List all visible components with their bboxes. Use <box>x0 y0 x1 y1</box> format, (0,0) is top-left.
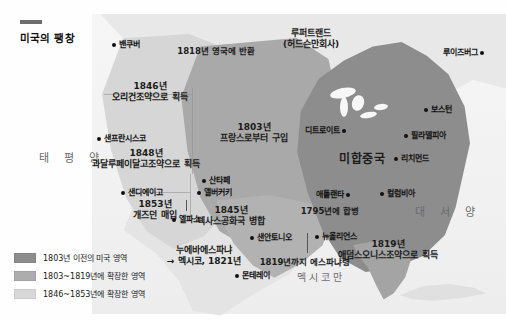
city-marker-albuquerque: 앨버커키 <box>195 186 232 197</box>
leader-line-spanish-1819 <box>307 233 308 253</box>
city-dot-icon <box>172 218 176 222</box>
region-label-line1: 1845년 <box>197 205 264 216</box>
city-label: 디트로이트 <box>305 126 340 135</box>
city-label: 엘파소 <box>179 215 200 224</box>
region-label-spanish-until-1819: 1819년까지 에스파냐령 <box>260 257 351 268</box>
city-marker-santa-fe: 산타페 <box>200 174 230 185</box>
city-label: 필라델피아 <box>411 131 446 140</box>
title-rule <box>20 20 42 24</box>
city-label: 애틀랜타 <box>316 190 344 199</box>
region-label-new-spain-mexico-1821: 누에바에스파냐→ 멕시코, 1821년 <box>167 245 241 268</box>
city-label: 샌디에이고 <box>128 188 163 197</box>
region-label-line2: 과달루페이달고조약으로 획득 <box>92 159 199 170</box>
city-marker-new-orleans: 뉴올리언스 <box>313 230 357 241</box>
region-label-line2: 텍사스공화국 병합 <box>197 216 264 227</box>
city-marker-detroit: 디트로이트 <box>305 124 348 135</box>
city-marker-san-diego: 샌디에이고 <box>119 186 163 197</box>
legend-label: 1846~1853년에 확장한 영역 <box>43 288 145 299</box>
city-dot-icon <box>404 134 408 138</box>
atlantic-ocean-label: 대 서 양 <box>415 206 482 220</box>
city-label: 보스턴 <box>431 105 452 114</box>
legend-swatch <box>14 253 36 263</box>
city-dot-icon <box>480 51 484 55</box>
region-label-line2: 애덤스오니스조약으로 획득 <box>338 250 437 261</box>
legend-swatch <box>14 289 36 299</box>
city-marker-richmond: 리치먼드 <box>392 152 429 163</box>
city-dot-icon <box>121 191 125 195</box>
region-label-oregon-treaty-1846: 1846년오리건조약으로 획득 <box>112 81 187 104</box>
region-label-line1: 1846년 <box>112 81 187 92</box>
region-label-guadalupe-hidalgo-1848: 1848년과달루페이달고조약으로 획득 <box>92 148 199 171</box>
city-dot-icon <box>342 129 346 133</box>
city-label: 컬럼비아 <box>387 189 415 198</box>
leader-line-el-paso <box>186 200 187 211</box>
region-label-line1: 1819년까지 에스파냐령 <box>260 257 351 268</box>
city-dot-icon <box>380 192 384 196</box>
city-marker-san-antonio: 샌안토니오 <box>248 231 292 242</box>
city-dot-icon <box>97 137 101 141</box>
united-states-label: 미합중국 <box>339 152 385 167</box>
region-label-texas-annexation-1845: 1845년텍사스공화국 병합 <box>197 205 264 228</box>
city-marker-louisbourg: 루이즈버그 <box>443 46 486 57</box>
region-label-line1: 1848년 <box>92 148 199 159</box>
page-title: 미국의 팽창 <box>20 30 75 45</box>
lake-michigan <box>340 97 348 117</box>
city-label: 리치먼드 <box>401 154 429 163</box>
region-label-annexed-1795: 1795년에 합병 <box>301 206 360 217</box>
city-dot-icon <box>315 235 319 239</box>
city-dot-icon <box>250 236 254 240</box>
city-dot-icon <box>202 179 206 183</box>
city-marker-monterrey: 몬테레이 <box>233 269 270 280</box>
region-label-rupert-land: 루퍼트랜드(허드슨만회사) <box>283 28 339 51</box>
city-label: 몬테레이 <box>242 271 270 280</box>
city-label: 샌안토니오 <box>257 233 292 242</box>
us-expansion-map: 미국의 팽창 태 평 양 대 서 양 멕시코만 미합중국 루퍼트랜드(허드슨만회… <box>0 0 506 320</box>
city-marker-columbia: 컬럼비아 <box>378 187 415 198</box>
city-label: 루이즈버그 <box>443 48 478 57</box>
region-label-line2: (허드슨만회사) <box>283 39 339 50</box>
city-dot-icon <box>197 191 201 195</box>
city-marker-philadelphia: 필라델피아 <box>402 129 446 140</box>
city-dot-icon <box>394 157 398 161</box>
region-label-line1: 1853년 <box>133 199 176 210</box>
legend-label: 1803~1819년에 확장한 영역 <box>43 270 145 281</box>
city-marker-vancouver: 밴쿠버 <box>110 38 140 49</box>
city-dot-icon <box>346 193 350 197</box>
city-label: 앨버커키 <box>204 188 232 197</box>
legend-row-legend-1846-1853: 1846~1853년에 확장한 영역 <box>14 288 145 299</box>
region-label-line1: 1795년에 합병 <box>301 206 360 217</box>
region-label-line2: 오리건조약으로 획득 <box>112 92 187 103</box>
city-dot-icon <box>424 108 428 112</box>
legend-swatch <box>14 271 36 281</box>
region-label-returned-to-britain-1818: 1818년 영국에 반환 <box>177 46 255 57</box>
gulf-of-mexico-label: 멕시코만 <box>297 272 345 285</box>
region-label-line2: → 멕시코, 1821년 <box>167 256 241 267</box>
city-marker-atlanta: 애틀랜타 <box>316 188 352 199</box>
region-label-line1: 루퍼트랜드 <box>283 28 339 39</box>
city-marker-boston: 보스턴 <box>422 103 452 114</box>
city-label: 밴쿠버 <box>119 40 140 49</box>
legend-row-legend-pre-1803: 1803년 이전의 미국 영역 <box>14 252 145 263</box>
city-label: 산타페 <box>209 176 230 185</box>
city-dot-icon <box>235 274 239 278</box>
region-label-line2: 프랑스로부터 구입 <box>220 133 287 144</box>
region-label-line1: 1818년 영국에 반환 <box>177 46 255 57</box>
legend-row-legend-1803-1819: 1803~1819년에 확장한 영역 <box>14 270 145 281</box>
region-label-louisiana-purchase-1803: 1803년프랑스로부터 구입 <box>220 122 287 145</box>
region-label-line1: 1803년 <box>220 122 287 133</box>
legend-label: 1803년 이전의 미국 영역 <box>43 252 127 263</box>
city-dot-icon <box>112 43 116 47</box>
city-label: 샌프란시스코 <box>104 134 146 143</box>
map-legend: 1803년 이전의 미국 영역1803~1819년에 확장한 영역1846~18… <box>14 252 145 306</box>
region-label-line1: 누에바에스파냐 <box>167 245 241 256</box>
city-label: 뉴올리언스 <box>322 232 357 241</box>
city-marker-el-paso: 엘파소 <box>170 213 200 224</box>
city-marker-san-francisco: 샌프란시스코 <box>95 132 146 143</box>
region-label-adams-onis-treaty-1819: 1819년애덤스오니스조약으로 획득 <box>338 239 437 262</box>
